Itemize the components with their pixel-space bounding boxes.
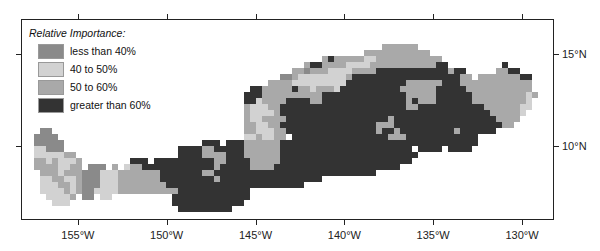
x-tick-label: 150°W [150,229,183,241]
x-tick-top [167,14,168,19]
x-tick-top [433,14,434,19]
cell-50-to-60 [508,122,514,128]
cell-greater-than-60 [490,128,496,134]
x-tick-bottom [522,220,523,225]
x-tick-bottom [433,220,434,225]
legend-label: greater than 60% [70,99,151,111]
cell-50-to-60 [514,116,520,122]
legend-item-40-to-50: 40 to 50% [29,60,151,78]
legend-label: less than 40% [70,45,136,57]
x-tick-label: 145°W [239,229,272,241]
cell-greater-than-60 [394,164,400,170]
x-tick-top [522,14,523,19]
cell-greater-than-60 [316,176,322,182]
legend-item-50-to-60: 50 to 60% [29,78,151,96]
x-tick-bottom [167,220,168,225]
cell-40-to-50 [520,110,526,116]
cell-greater-than-60 [412,152,418,158]
y-tick-left [16,146,21,147]
cell-greater-than-60 [370,170,376,176]
legend-item-greater-than-60: greater than 60% [29,96,151,114]
y-tick-right [554,146,559,147]
cell-less-than-40 [88,194,94,200]
cell-40-to-50 [526,104,532,110]
x-tick-label: 140°W [328,229,361,241]
cell-40-to-50 [106,194,112,200]
cell-greater-than-60 [406,158,412,164]
x-tick-bottom [78,220,79,225]
y-tick-right [554,54,559,55]
legend: Relative Importance: less than 40% 40 to… [29,27,151,114]
x-tick-top [344,14,345,19]
legend-swatch [38,80,64,95]
legend-label: 40 to 50% [70,63,117,75]
x-tick-bottom [256,220,257,225]
y-tick-label: 15°N [562,48,587,60]
cell-greater-than-60 [244,194,250,200]
cell-50-to-60 [532,92,538,98]
legend-title: Relative Importance: [29,27,151,39]
x-tick-label: 155°W [61,229,94,241]
cell-greater-than-60 [226,206,232,212]
legend-swatch [38,44,64,59]
cell-greater-than-60 [466,146,472,152]
x-tick-bottom [344,220,345,225]
y-tick-left [16,54,21,55]
y-tick-label: 10°N [562,140,587,152]
x-tick-label: 135°W [417,229,450,241]
cell-greater-than-60 [298,182,304,188]
cell-greater-than-60 [436,146,442,152]
legend-swatch [38,62,64,77]
x-tick-top [78,14,79,19]
legend-label: 50 to 60% [70,81,117,93]
x-tick-label: 130°W [505,229,538,241]
legend-swatch [38,98,64,113]
x-tick-top [256,14,257,19]
cell-40-to-50 [64,200,70,206]
cell-greater-than-60 [238,200,244,206]
cell-greater-than-60 [472,140,478,146]
cell-50-to-60 [70,194,76,200]
legend-item-less-than-40: less than 40% [29,42,151,60]
